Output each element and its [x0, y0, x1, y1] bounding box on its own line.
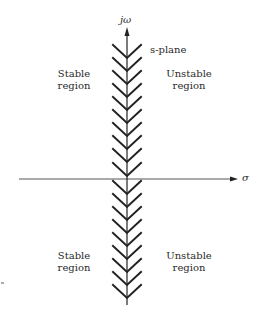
stable-region-upper: Stable region [44, 68, 104, 92]
stable-region-lower: Stable region [44, 250, 104, 274]
region-label-line2: region [44, 80, 104, 92]
region-label-line2: region [44, 262, 104, 274]
jw-axis-arrow-icon [125, 27, 130, 36]
region-label-line1: Unstable [154, 250, 224, 262]
region-label-line2: region [154, 80, 224, 92]
unstable-region-lower: Unstable region [154, 250, 224, 274]
region-label-line1: Stable [44, 68, 104, 80]
region-label-line1: Stable [44, 250, 104, 262]
unstable-region-upper: Unstable region [154, 68, 224, 92]
region-label-line1: Unstable [154, 68, 224, 80]
sigma-axis-arrow-icon [230, 177, 238, 182]
s-plane-label: s-plane [150, 44, 186, 56]
region-label-line2: region [154, 262, 224, 274]
jw-axis-label: jω [120, 14, 131, 25]
sigma-axis-label: σ [242, 172, 249, 183]
